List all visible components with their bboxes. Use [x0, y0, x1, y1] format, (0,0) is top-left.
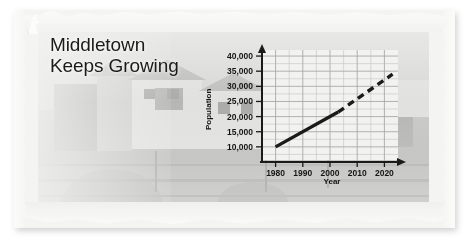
y-tick-label: 40,000 [227, 51, 253, 61]
x-tick-label: 2020 [375, 168, 394, 178]
x-tick-label: 1980 [266, 168, 285, 178]
torn-edge-top [14, 10, 455, 32]
torn-edge-bottom [14, 202, 455, 228]
arrow-up-icon [258, 44, 266, 53]
page-title: Middletown Keeps Growing [50, 34, 179, 76]
y-tick-label: 35,000 [227, 66, 253, 76]
arrow-right-icon [397, 158, 406, 166]
x-tick-label: 1990 [293, 168, 312, 178]
y-axis-ticks: 10,00015,00020,00025,00030,00035,00040,0… [227, 51, 262, 152]
y-tick-label: 20,000 [227, 112, 253, 122]
headline-line-2: Keeps Growing [50, 55, 179, 76]
y-tick-label: 10,000 [227, 142, 253, 152]
torn-edge-left [14, 10, 34, 228]
y-tick-label: 25,000 [227, 96, 253, 106]
x-axis-label: Year [324, 177, 341, 186]
y-axis-label: Population [204, 89, 213, 130]
x-tick-label: 2010 [348, 168, 367, 178]
torn-edge-right [433, 10, 455, 228]
headline-line-1: Middletown [50, 34, 179, 55]
y-tick-label: 30,000 [227, 81, 253, 91]
x-axis-ticks: 19801990200020102020 [266, 162, 394, 178]
population-line-chart: 10,00015,00020,00025,00030,00035,00040,0… [200, 40, 412, 188]
newspaper-clipping: Middletown Keeps Growing 10,00015,00020,… [14, 10, 455, 228]
y-tick-label: 15,000 [227, 127, 253, 137]
chart-svg: 10,00015,00020,00025,00030,00035,00040,0… [200, 40, 412, 188]
